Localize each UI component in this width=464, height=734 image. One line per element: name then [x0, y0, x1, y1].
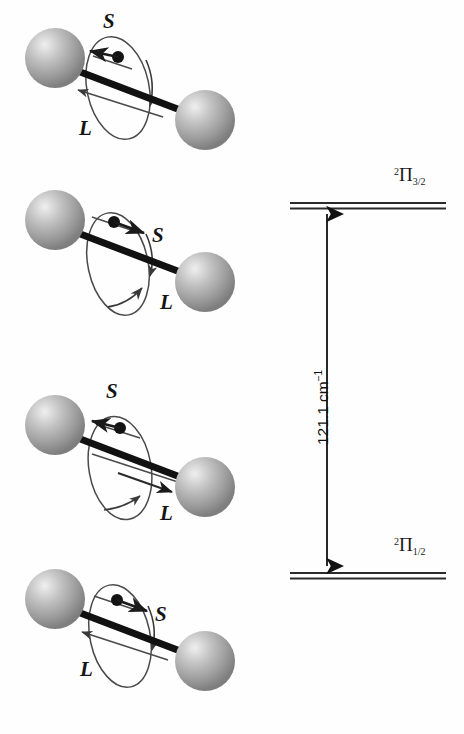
molecule-panel-4: S L	[0, 548, 290, 728]
lower-level-subscript: 1/2	[413, 546, 426, 557]
atom-sphere-right	[175, 457, 235, 517]
splitting-unit-exponent: −1	[313, 370, 324, 381]
atom-sphere-right	[175, 90, 235, 150]
lower-level-label: 2Π1/2	[394, 534, 426, 556]
spin-label-2: S	[152, 223, 164, 247]
splitting-unit-base: cm	[314, 381, 331, 402]
atom-sphere-right	[175, 252, 235, 312]
molecule-panel-2: S L	[0, 172, 290, 352]
panel-4-graphic: S L	[0, 548, 290, 728]
rotation-direction-arrow	[104, 496, 140, 510]
orbital-vector-arrow-3	[118, 473, 172, 492]
spin-label-3: S	[106, 379, 118, 403]
panel-2-graphic: S L	[0, 172, 290, 352]
orbital-vector-arrow-2	[108, 288, 142, 307]
atom-sphere-right	[175, 631, 235, 691]
atom-sphere-left	[25, 190, 85, 250]
molecule-panel-1: S L	[0, 0, 290, 180]
spin-vector-arrow-2	[114, 222, 144, 233]
spin-label-1: S	[103, 9, 115, 33]
spin-label-4: S	[155, 602, 167, 626]
panel-3-graphic: S L	[0, 370, 290, 550]
panel-1-graphic: S L	[0, 0, 290, 180]
orbital-label-4: L	[79, 657, 93, 681]
figure-canvas: S L	[0, 0, 464, 734]
splitting-value-label: 121.1 cm−1	[314, 370, 332, 445]
energy-level-diagram: 2Π3/2 2Π1/2 121.1 cm−1	[282, 180, 464, 600]
orbital-label-1: L	[78, 116, 92, 140]
upper-level-term-symbol: Π	[399, 164, 413, 185]
atom-sphere-left	[25, 395, 85, 455]
molecule-panel-3: S L	[0, 370, 290, 550]
splitting-value: 121.1	[314, 406, 331, 445]
lower-level-term-symbol: Π	[399, 534, 413, 555]
upper-level-subscript: 3/2	[413, 176, 426, 187]
orbital-label-2: L	[159, 290, 173, 314]
upper-level-label: 2Π3/2	[394, 164, 426, 186]
orbital-label-3: L	[159, 501, 173, 525]
atom-sphere-left	[25, 569, 85, 629]
energy-diagram-graphic	[282, 180, 464, 600]
atom-sphere-left	[25, 28, 85, 88]
